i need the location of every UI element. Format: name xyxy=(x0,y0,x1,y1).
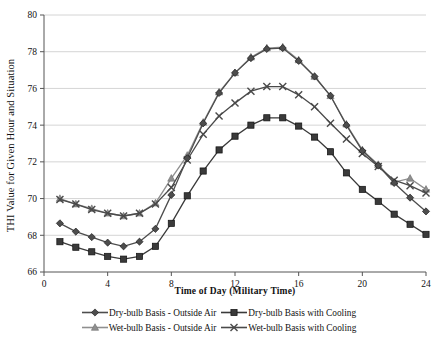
data-point-marker-diamond xyxy=(88,234,95,241)
legend-item[interactable]: Dry-bulb Basis with Cooling xyxy=(221,307,359,318)
data-point-marker-diamond xyxy=(72,228,79,235)
data-point-marker-square xyxy=(184,193,190,199)
data-point-marker-diamond xyxy=(56,220,63,227)
data-point-marker-cross xyxy=(343,135,350,142)
y-axis-tick-label: 72 xyxy=(28,157,38,167)
data-point-marker-square xyxy=(89,249,95,255)
plot-area: 666870727476788004812162024 xyxy=(0,0,441,290)
legend-marker-triangle-icon xyxy=(82,322,108,333)
series-line xyxy=(60,47,426,216)
data-point-marker-square xyxy=(231,309,237,315)
legend-row: Dry-bulb Basis - Outside AirDry-bulb Bas… xyxy=(0,305,441,320)
data-point-marker-diamond xyxy=(104,239,111,246)
thi-line-chart: THI Value for Given Hour and Situation 6… xyxy=(0,0,441,351)
series-1 xyxy=(57,115,429,263)
data-point-marker-cross xyxy=(216,112,223,119)
legend-label: Dry-bulb Basis - Outside Air xyxy=(109,308,219,318)
y-axis-tick-label: 66 xyxy=(28,267,38,277)
data-point-marker-square xyxy=(391,211,397,217)
series-line xyxy=(60,48,426,246)
legend-marker-square-icon xyxy=(221,307,247,318)
data-point-marker-square xyxy=(423,231,429,237)
y-axis-tick-label: 70 xyxy=(28,194,38,204)
data-point-marker-cross xyxy=(407,182,414,189)
y-axis-tick-label: 76 xyxy=(28,84,38,94)
data-point-marker-cross xyxy=(200,131,207,138)
legend-label: Wet-bulb Basis with Cooling xyxy=(248,323,359,333)
data-point-marker-square xyxy=(152,243,158,249)
y-axis-tick-label: 80 xyxy=(28,10,38,20)
data-point-marker-square xyxy=(311,134,317,140)
data-point-marker-triangle xyxy=(406,175,413,182)
data-point-marker-diamond xyxy=(91,309,98,316)
data-point-marker-square xyxy=(264,115,270,121)
legend-row: Wet-bulb Basis - Outside AirWet-bulb Bas… xyxy=(0,320,441,335)
series-line xyxy=(60,118,426,259)
y-axis-tick-label: 68 xyxy=(28,231,38,241)
legend-marker-diamond-icon xyxy=(82,307,108,318)
data-point-marker-square xyxy=(343,170,349,176)
data-point-marker-square xyxy=(105,253,111,259)
x-axis-label: Time of Day (Military Time) xyxy=(44,286,426,296)
legend-label: Dry-bulb Basis with Cooling xyxy=(248,308,359,318)
data-point-marker-square xyxy=(407,221,413,227)
data-point-marker-square xyxy=(280,115,286,121)
chart-legend: Dry-bulb Basis - Outside AirDry-bulb Bas… xyxy=(0,305,441,335)
data-point-marker-square xyxy=(200,168,206,174)
data-point-marker-square xyxy=(327,149,333,155)
y-axis-tick-label: 78 xyxy=(28,47,38,57)
data-point-marker-square xyxy=(136,253,142,259)
legend-label: Wet-bulb Basis - Outside Air xyxy=(109,323,220,333)
data-point-marker-square xyxy=(168,220,174,226)
series-3 xyxy=(56,83,429,219)
data-point-marker-diamond xyxy=(120,243,127,250)
y-axis-tick-label: 74 xyxy=(28,121,38,131)
data-point-marker-cross xyxy=(232,100,239,107)
legend-item[interactable]: Wet-bulb Basis with Cooling xyxy=(221,322,359,333)
data-point-marker-cross xyxy=(295,91,302,98)
data-point-marker-diamond xyxy=(200,120,207,127)
legend-marker-cross-icon xyxy=(221,322,247,333)
data-point-marker-diamond xyxy=(168,191,175,198)
legend-item[interactable]: Dry-bulb Basis - Outside Air xyxy=(82,307,219,318)
data-point-marker-square xyxy=(73,244,79,250)
data-point-marker-cross xyxy=(327,120,334,127)
data-point-marker-square xyxy=(57,239,63,245)
data-point-marker-square xyxy=(296,123,302,129)
data-point-marker-square xyxy=(120,256,126,262)
data-point-marker-square xyxy=(359,186,365,192)
series-0 xyxy=(56,44,429,249)
data-point-marker-square xyxy=(232,133,238,139)
data-point-marker-square xyxy=(375,198,381,204)
legend-item[interactable]: Wet-bulb Basis - Outside Air xyxy=(82,322,220,333)
data-point-marker-cross xyxy=(311,103,318,110)
data-point-marker-square xyxy=(216,147,222,153)
data-point-marker-square xyxy=(248,122,254,128)
